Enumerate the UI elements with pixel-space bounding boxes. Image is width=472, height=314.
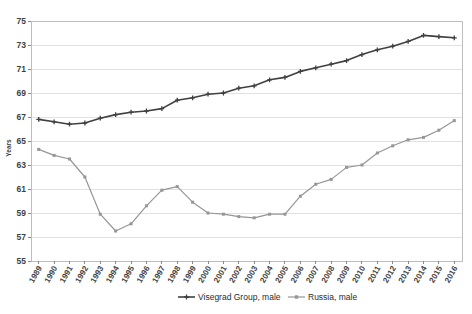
data-point-marker	[130, 222, 133, 225]
line-chart: 5557596163656769717375 19891990199119921…	[0, 0, 472, 314]
chart-legend: Visegrad Group, maleRussia, male	[178, 292, 357, 302]
data-point-marker	[376, 152, 379, 155]
y-tick-label: 59	[17, 208, 27, 218]
data-point-marker	[422, 136, 425, 139]
data-point-marker	[114, 230, 117, 233]
data-point-marker	[176, 185, 179, 188]
data-point-marker	[207, 212, 210, 215]
legend-marker	[295, 295, 298, 298]
data-point-marker	[37, 148, 40, 151]
data-point-marker	[437, 129, 440, 132]
data-point-marker	[345, 166, 348, 169]
data-point-marker	[391, 144, 394, 147]
data-point-marker	[222, 213, 225, 216]
data-point-marker	[53, 154, 56, 157]
y-tick-label: 67	[17, 112, 27, 122]
data-point-marker	[283, 213, 286, 216]
y-tick-label: 61	[17, 184, 27, 194]
y-tick-label: 65	[17, 136, 27, 146]
chart-container: 5557596163656769717375 19891990199119921…	[0, 0, 472, 314]
y-tick-label: 55	[17, 256, 27, 266]
data-point-marker	[253, 216, 256, 219]
data-point-marker	[407, 138, 410, 141]
data-point-marker	[268, 213, 271, 216]
legend-label: Visegrad Group, male	[198, 292, 281, 302]
data-point-marker	[299, 195, 302, 198]
data-point-marker	[83, 176, 86, 179]
y-tick-label: 57	[17, 232, 27, 242]
data-point-marker	[453, 119, 456, 122]
data-point-marker	[237, 215, 240, 218]
y-tick-label: 69	[17, 88, 27, 98]
y-tick-label: 63	[17, 160, 27, 170]
data-point-marker	[160, 189, 163, 192]
y-axis-title-label: Years	[5, 139, 12, 157]
y-tick-label: 73	[17, 40, 27, 50]
data-point-marker	[99, 213, 102, 216]
y-tick-label: 71	[17, 64, 27, 74]
data-point-marker	[68, 158, 71, 161]
data-point-marker	[145, 204, 148, 207]
data-point-marker	[191, 201, 194, 204]
legend-label: Russia, male	[308, 292, 357, 302]
y-tick-label: 75	[17, 16, 27, 26]
data-point-marker	[330, 178, 333, 181]
y-axis-title: Years	[5, 139, 12, 157]
data-point-marker	[314, 183, 317, 186]
data-point-marker	[360, 164, 363, 167]
